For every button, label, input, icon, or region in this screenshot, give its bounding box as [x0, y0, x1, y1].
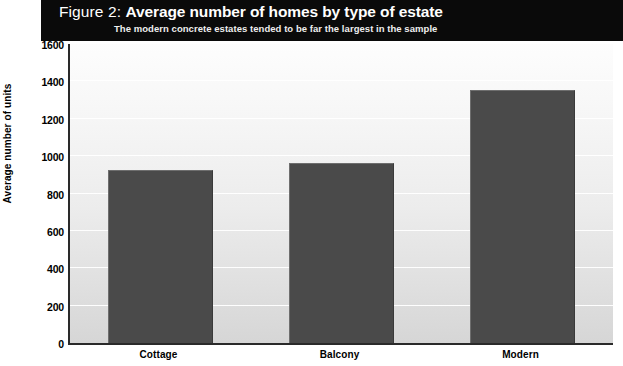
plot-area	[68, 44, 613, 345]
x-tick-label-cottage: Cottage	[140, 349, 178, 360]
gridline	[70, 80, 613, 81]
y-tick-label: 200	[6, 301, 64, 313]
y-tick-label: 400	[6, 263, 64, 275]
chart-title-line: Figure 2: Average number of homes by typ…	[59, 2, 443, 22]
chart-header-band: Figure 2: Average number of homes by typ…	[41, 0, 623, 41]
x-axis-tick-labels: CottageBalconyModern	[68, 349, 613, 366]
x-tick-label-modern: Modern	[502, 349, 539, 360]
y-tick-label: 1000	[6, 151, 64, 163]
page-title: Average number of homes by type of estat…	[125, 3, 442, 20]
y-tick-label: 1400	[6, 76, 64, 88]
x-tick-label-balcony: Balcony	[320, 349, 360, 360]
y-tick-label: 600	[6, 226, 64, 238]
bar-balcony[interactable]	[289, 163, 394, 343]
y-tick-label: 1600	[6, 39, 64, 51]
y-axis-tick-labels: 02004006008001000120014001600	[0, 44, 64, 345]
y-tick-label: 1200	[6, 114, 64, 126]
y-tick-label: 0	[6, 338, 64, 350]
bar-modern[interactable]	[470, 90, 575, 343]
figure-label: Figure 2:	[59, 3, 121, 20]
chart-subtitle: The modern concrete estates tended to be…	[114, 23, 437, 34]
bar-cottage[interactable]	[108, 170, 213, 343]
y-tick-label: 800	[6, 189, 64, 201]
figure-chart: Figure 2: Average number of homes by typ…	[0, 0, 623, 366]
